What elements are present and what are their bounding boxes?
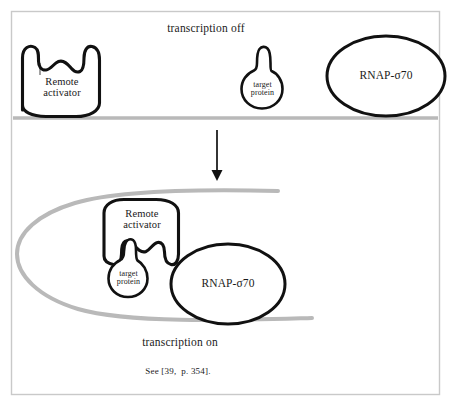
remote-activator-label-top: Remoteactivator	[16, 76, 108, 98]
target-protein-label-top: targetprotein	[240, 81, 285, 98]
remote-activator-label-line1-bottom: Remote	[125, 208, 158, 219]
target-protein-label-line2-bottom: protein	[117, 277, 140, 286]
remote-activator-label-line1-top: Remote	[45, 76, 78, 87]
remote-activator-label-line2-bottom: activator	[123, 219, 161, 230]
remote-activator-label-line2-top: activator	[43, 87, 81, 98]
citation-label: See [39, p. 354].	[118, 367, 238, 376]
figure-root: transcription off Remoteactivator target…	[0, 0, 457, 412]
target-protein-label-line2-top: protein	[251, 88, 274, 97]
transcription-on-label: transcription on	[110, 336, 250, 348]
rnap-label-bottom: RNAP-σ70	[178, 277, 278, 289]
figure-canvas	[0, 0, 457, 412]
rnap-label-top: RNAP-σ70	[336, 69, 436, 81]
transcription-off-label: transcription off	[136, 22, 276, 34]
target-protein-label-bottom: targetprotein	[106, 270, 151, 287]
remote-activator-label-bottom: Remoteactivator	[96, 208, 188, 230]
